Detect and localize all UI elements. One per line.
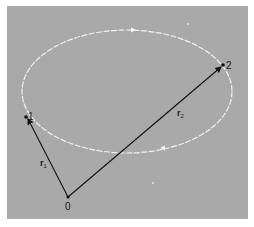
orbit-direction-arrow-top xyxy=(131,28,136,33)
origin-label: 0 xyxy=(65,201,71,212)
speck xyxy=(152,182,154,184)
point-2 xyxy=(221,63,225,67)
speck xyxy=(187,23,189,25)
vector-r2 xyxy=(68,67,221,197)
orbit-ellipse xyxy=(22,30,232,153)
point-2-label: 2 xyxy=(226,60,232,71)
origin-point xyxy=(66,195,69,198)
orbit-diagram: 1 2 0 r1 r2 xyxy=(0,0,254,227)
vector-r2-label: r2 xyxy=(177,108,185,119)
vector-r1 xyxy=(28,119,68,197)
vector-r1-label: r1 xyxy=(40,158,48,169)
point-1-label: 1 xyxy=(28,111,34,122)
